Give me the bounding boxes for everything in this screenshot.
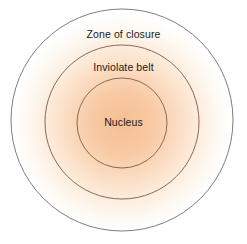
concentric-zone-diagram: Zone of closure Inviolate belt Nucleus (0, 0, 247, 244)
zone-of-closure-label: Zone of closure (0, 28, 247, 40)
nucleus-label: Nucleus (0, 116, 247, 128)
inviolate-belt-label: Inviolate belt (0, 61, 247, 73)
